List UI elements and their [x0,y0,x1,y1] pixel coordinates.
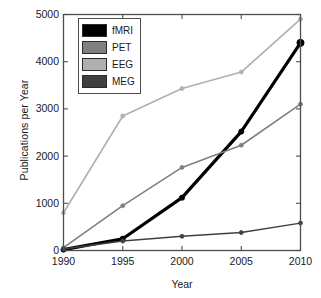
legend-item-pet: PET [82,39,137,56]
series-pet [62,102,303,249]
legend-item-eeg: EEG [82,56,137,73]
plot-area [0,0,321,298]
legend-label: fMRI [112,26,133,36]
legend-label: EEG [112,60,133,70]
legend: fMRIPETEEGMEG [78,18,141,94]
legend-item-fmri: fMRI [82,22,137,39]
legend-swatch-eeg [82,58,107,71]
legend-label: PET [112,43,131,53]
legend-item-meg: MEG [82,73,137,90]
figure: Publications per Year 010002000300040005… [0,0,321,298]
legend-swatch-pet [82,41,107,54]
legend-label: MEG [112,77,135,87]
legend-swatch-fmri [82,24,107,37]
legend-swatch-meg [82,75,107,88]
